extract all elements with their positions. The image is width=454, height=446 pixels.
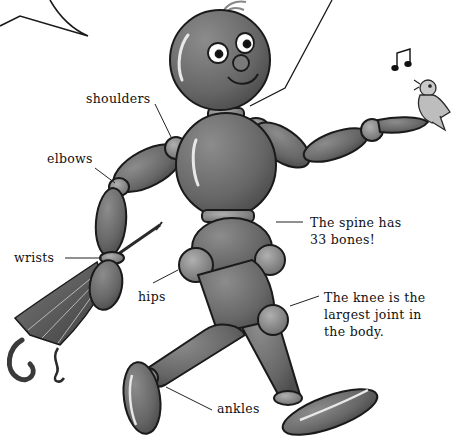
label-shoulders: shoulders — [86, 90, 151, 107]
ankles-leader — [166, 387, 212, 410]
label-hips: hips — [138, 288, 166, 305]
knee-fact-line-2: largest joint in — [324, 306, 426, 323]
knee-fact-line-3: the body. — [324, 323, 426, 340]
elbows-leader — [95, 168, 115, 183]
nose — [233, 55, 249, 71]
label-spine-fact: The spine has 33 bones! — [310, 214, 401, 248]
label-knee-fact: The knee is the largest joint in the bod… — [324, 289, 426, 340]
music-note-icon — [392, 49, 411, 70]
left-arm — [86, 134, 190, 312]
speech-bubble-left — [0, 0, 88, 36]
label-ankles: ankles — [217, 400, 260, 417]
spine-fact-line-2: 33 bones! — [310, 231, 401, 248]
label-elbows: elbows — [47, 150, 93, 167]
label-wrists: wrists — [14, 249, 54, 266]
hips-leader — [153, 270, 178, 283]
knee-fact-line-1: The knee is the — [324, 289, 426, 306]
spine-fact-line-1: The spine has — [310, 214, 401, 231]
knee-leader — [290, 296, 319, 306]
shoulders-leader — [155, 104, 172, 139]
